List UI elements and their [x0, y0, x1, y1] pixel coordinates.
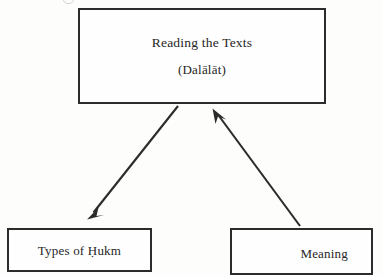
scan-artifact-glyph — [63, 0, 74, 4]
root-node-box[interactable]: Reading the Texts (Dalālāt) — [78, 8, 326, 104]
arrow-root-to-hukm-shaft — [94, 106, 179, 213]
types-of-hukm-node-box[interactable]: Types of Ḥukm — [7, 228, 152, 272]
arrow-root-to-hukm — [87, 106, 178, 220]
types-of-hukm-label: Types of Ḥukm — [38, 243, 121, 259]
arrow-root-to-hukm-head — [87, 208, 104, 220]
root-node-title: Reading the Texts — [152, 35, 252, 51]
meaning-label: Meaning — [300, 246, 348, 262]
root-node-subtitle: (Dalālāt) — [178, 62, 226, 78]
meaning-node-box[interactable]: Meaning — [230, 228, 373, 275]
diagram-canvas: Reading the Texts (Dalālāt) Types of Ḥuk… — [0, 0, 383, 275]
arrow-meaning-to-root — [213, 109, 301, 227]
arrow-meaning-to-root-shaft — [219, 116, 300, 226]
arrow-meaning-to-root-head — [213, 109, 227, 125]
